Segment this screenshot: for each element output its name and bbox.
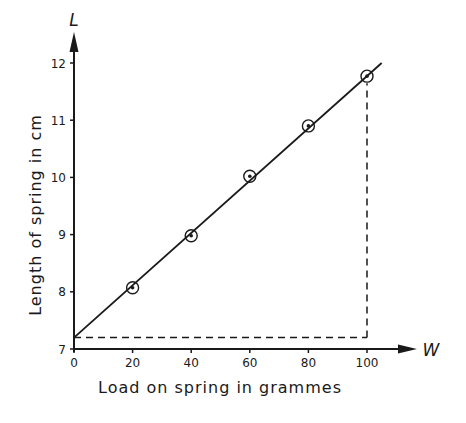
data-point-dot xyxy=(248,174,252,178)
y-axis-symbol: L xyxy=(69,10,78,30)
data-point-dot xyxy=(307,124,311,128)
y-tick-label: 10 xyxy=(51,171,66,185)
x-axis-symbol: W xyxy=(423,340,441,360)
x-tick-label: 100 xyxy=(356,356,379,370)
data-point-dot xyxy=(189,234,193,238)
spring-extension-chart: 020406080100789101112 L W Load on spring… xyxy=(0,0,466,423)
y-tick-label: 7 xyxy=(58,343,66,357)
data-point-dot xyxy=(131,286,135,290)
x-axis-title: Load on spring in grammes xyxy=(98,378,342,397)
y-axis-arrow-icon xyxy=(70,32,79,52)
best-fit-line xyxy=(74,63,382,338)
y-tick-label: 9 xyxy=(58,228,66,242)
y-tick-label: 12 xyxy=(51,57,66,71)
y-tick-label: 11 xyxy=(51,114,66,128)
x-axis-arrow-icon xyxy=(398,345,417,354)
x-tick-label: 20 xyxy=(125,356,140,370)
y-axis-title: Length of spring in cm xyxy=(26,114,45,316)
x-tick-label: 60 xyxy=(242,356,257,370)
fit-line xyxy=(74,63,382,338)
x-tick-label: 40 xyxy=(184,356,199,370)
x-tick-label: 0 xyxy=(70,356,78,370)
data-point-dot xyxy=(365,74,369,78)
y-tick-label: 8 xyxy=(58,285,66,299)
x-tick-label: 80 xyxy=(301,356,316,370)
axes xyxy=(70,32,418,354)
